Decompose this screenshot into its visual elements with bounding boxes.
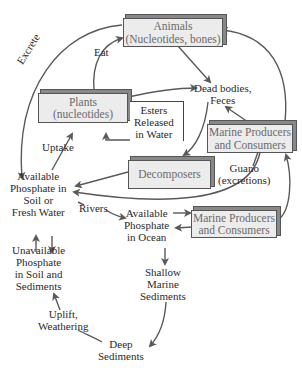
available-phosphate-soil-label: Available Phosphate in Soil or Fresh Wat… [10,170,67,218]
plants-label: Plants [69,96,97,109]
uplift-weathering-label: Uplift, Weathering [38,308,88,332]
esters-label: Esters Released in Water [134,104,174,140]
marine-producers-bottom-box: Marine Producers and Consumers [191,210,277,238]
animals-label: Animals [154,20,193,33]
unavailable-phosphate-label: Unavailable Phosphate in Soil and Sedime… [12,244,65,292]
deep-sediments-label: Deep Sediments [98,338,144,362]
marine-bottom-label: Marine Producers [193,212,275,225]
shallow-marine-sediments-label: Shallow Marine Sediments [140,266,186,302]
eat-label: Eat [94,46,109,58]
uptake-label: Uptake [42,141,74,153]
animals-box: Animals (Nucleotides, bones) [123,18,223,47]
plants-sublabel: (nucleotides) [53,108,113,121]
marine-top-sublabel: and Consumers [214,139,285,152]
decomposers-label: Decomposers [138,168,201,181]
marine-bottom-sublabel: and Consumers [198,224,269,237]
available-phosphate-ocean-label: Available Phosphate in Ocean [124,207,169,243]
animals-sublabel: (Nucleotides, bones) [125,33,220,46]
marine-top-label: Marine Producers [209,126,291,139]
marine-producers-top-box: Marine Producers and Consumers [207,124,293,153]
plants-box: Plants (nucleotides) [38,93,128,123]
decomposers-box: Decomposers [128,160,211,189]
guano-label: Guano (excretions) [218,162,271,186]
rivers-label: Rivers [79,202,108,214]
dead-bodies-label: Dead bodies, Feces [194,82,251,106]
